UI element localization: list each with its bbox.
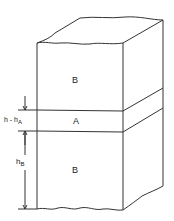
top-face: [37, 17, 163, 44]
region-A-label: A: [73, 117, 79, 126]
dimension-layer-A: h - hA: [4, 116, 22, 125]
region-top-B-label: B: [72, 76, 78, 85]
dimension-bottom-B: hB: [16, 158, 24, 167]
region-bottom-B-label: B: [72, 166, 78, 175]
block-diagram: [0, 0, 174, 221]
